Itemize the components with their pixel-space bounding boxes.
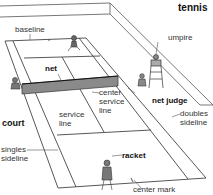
near-player (102, 160, 112, 190)
label-center-service-line-1: center (99, 88, 124, 97)
label-racket: racket (122, 151, 146, 160)
net-judge-figure (138, 74, 146, 86)
label-umpire: umpire (168, 33, 192, 42)
label-service-line-2: line (59, 119, 84, 128)
label-center-service-line: center service line (99, 88, 124, 115)
label-singles-sideline: singles sideline (1, 145, 28, 163)
label-center-service-line-2: service (99, 97, 124, 106)
label-baseline: baseline (15, 25, 45, 34)
label-center-service-line-3: line (99, 106, 124, 115)
label-singles-sideline-1: singles (1, 145, 28, 154)
label-court: court (2, 119, 25, 128)
label-doubles-sideline-1: doubles (180, 109, 208, 118)
label-doubles-sideline: doubles sideline (180, 109, 208, 127)
label-center-mark: center mark (133, 185, 175, 194)
label-singles-sideline-2: sideline (1, 154, 28, 163)
label-net: net (45, 64, 57, 73)
diagram-title: tennis (178, 2, 207, 13)
label-service-line: service line (59, 110, 84, 128)
label-net-judge: net judge (152, 96, 188, 105)
label-doubles-sideline-2: sideline (180, 118, 208, 127)
far-player (68, 36, 80, 52)
label-service-line-1: service (59, 110, 84, 119)
umpire-chair (149, 55, 163, 89)
